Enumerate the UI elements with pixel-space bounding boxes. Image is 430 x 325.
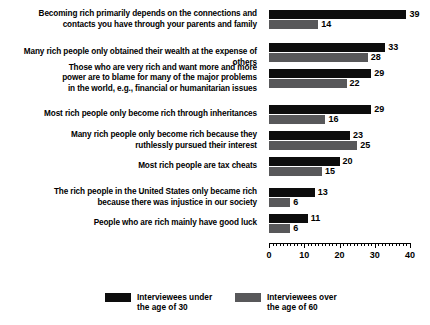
category-label: Most rich people only become rich throug… (0, 109, 263, 120)
x-axis-tick-label: 30 (370, 250, 380, 260)
x-axis-minor-tick (368, 243, 369, 246)
bar-group: 2916 (269, 105, 430, 124)
x-axis-minor-tick (343, 243, 344, 246)
x-axis-tick-label: 10 (299, 250, 309, 260)
x-axis-minor-tick (287, 243, 288, 246)
x-axis-minor-tick (297, 243, 298, 246)
x-axis-minor-tick (283, 243, 284, 246)
chart-row: Becoming rich primarily depends on the c… (0, 10, 430, 29)
x-axis-tick-label: 40 (405, 250, 415, 260)
x-axis-minor-tick (311, 243, 312, 246)
bar (269, 167, 322, 176)
x-axis-minor-tick (389, 243, 390, 246)
x-axis-minor-tick (315, 243, 316, 246)
x-axis-minor-tick (396, 243, 397, 246)
chart-legend: Interviewees under the age of 30Intervie… (0, 288, 430, 322)
plot-area: Becoming rich primarily depends on the c… (0, 0, 430, 262)
chart-row: The rich people in the United States onl… (0, 188, 430, 207)
bar-value-label: 29 (374, 105, 384, 114)
category-label: Those who are very rich and want more an… (0, 63, 263, 95)
category-label: The rich people in the United States onl… (0, 187, 263, 208)
x-axis-minor-tick (322, 243, 323, 246)
x-axis-minor-tick (273, 243, 274, 246)
x-axis-minor-tick (308, 243, 309, 246)
x-axis-minor-tick (294, 243, 295, 246)
bar-group: 136 (269, 188, 430, 207)
bar (269, 188, 315, 197)
bar (269, 141, 357, 150)
x-axis-minor-tick (325, 243, 326, 246)
x-axis-minor-tick (332, 243, 333, 246)
legend-item: Interviewees over the age of 60 (235, 292, 337, 312)
x-axis-major-tick (410, 243, 411, 248)
x-axis-minor-tick (276, 243, 277, 246)
legend-item: Interviewees under the age of 30 (105, 292, 212, 312)
category-label: Many rich people only become rich becaus… (0, 130, 263, 151)
bar-value-label: 33 (388, 43, 398, 52)
category-label: Becoming rich primarily depends on the c… (0, 9, 263, 30)
category-label: People who are rich mainly have good luc… (0, 218, 263, 229)
bar (269, 214, 308, 223)
x-axis-major-tick (340, 243, 341, 248)
chart-row: People who are rich mainly have good luc… (0, 214, 430, 233)
x-axis-minor-tick (385, 243, 386, 246)
bar-value-label: 29 (374, 69, 384, 78)
bar (269, 43, 385, 52)
bar-value-label: 6 (293, 224, 298, 233)
chart-row: Many rich people only become rich becaus… (0, 131, 430, 150)
bar-value-label: 20 (343, 157, 353, 166)
x-axis-major-tick (269, 243, 270, 248)
bar-value-label: 28 (371, 53, 381, 62)
bar (269, 198, 290, 207)
x-axis: 010203040 (269, 243, 410, 273)
legend-swatch (235, 293, 261, 302)
x-axis-tick-label: 20 (334, 250, 344, 260)
x-axis-minor-tick (347, 243, 348, 246)
chart-row: Many rich people only obtained their wea… (0, 43, 430, 62)
x-axis-minor-tick (399, 243, 400, 246)
bar (269, 69, 371, 78)
chart-row: Most rich people are tax cheats2015 (0, 157, 430, 176)
x-axis-minor-tick (406, 243, 407, 246)
bar-group: 2325 (269, 131, 430, 150)
x-axis-minor-tick (350, 243, 351, 246)
bar (269, 131, 350, 140)
bar (269, 224, 290, 233)
x-axis-major-tick (375, 243, 376, 248)
bar-value-label: 11 (311, 214, 321, 223)
x-axis-minor-tick (336, 243, 337, 246)
bar-value-label: 14 (321, 20, 331, 29)
bar-value-label: 25 (360, 141, 370, 150)
bar (269, 10, 406, 19)
category-label: Most rich people are tax cheats (0, 161, 263, 172)
bar-value-label: 15 (325, 167, 335, 176)
legend-label: Interviewees under the age of 30 (137, 292, 212, 312)
bar (269, 20, 318, 29)
x-axis-minor-tick (318, 243, 319, 246)
x-axis-minor-tick (280, 243, 281, 246)
x-axis-minor-tick (301, 243, 302, 246)
x-axis-minor-tick (329, 243, 330, 246)
x-axis-minor-tick (392, 243, 393, 246)
bar (269, 79, 347, 88)
legend-label: Interviewees over the age of 60 (267, 292, 337, 312)
bar-group: 2015 (269, 157, 430, 176)
chart-row: Most rich people only become rich throug… (0, 105, 430, 124)
bar-value-label: 6 (293, 198, 298, 207)
bar-group: 3914 (269, 10, 430, 29)
bar (269, 115, 325, 124)
x-axis-minor-tick (354, 243, 355, 246)
x-axis-minor-tick (364, 243, 365, 246)
bar-group: 3328 (269, 43, 430, 62)
bar-group: 116 (269, 214, 430, 233)
chart-row: Those who are very rich and want more an… (0, 69, 430, 88)
bar (269, 53, 368, 62)
bar-value-label: 16 (328, 115, 338, 124)
bar-chart: Becoming rich primarily depends on the c… (0, 0, 430, 325)
x-axis-tick-label: 0 (266, 250, 271, 260)
bar-value-label: 23 (353, 131, 363, 140)
bar-value-label: 22 (350, 79, 360, 88)
bar (269, 157, 340, 166)
x-axis-minor-tick (357, 243, 358, 246)
x-axis-minor-tick (361, 243, 362, 246)
